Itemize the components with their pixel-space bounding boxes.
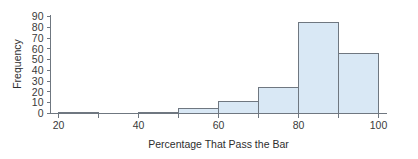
histogram-figure: 0102030405060708090 20406080100 Percenta… — [0, 0, 418, 159]
y-tick-label: 60 — [32, 43, 44, 55]
histogram-bar — [259, 88, 299, 114]
y-tick-label: 30 — [32, 75, 44, 87]
histogram-bar — [339, 53, 379, 113]
x-tick-label: 40 — [133, 119, 145, 131]
y-tick-label: 90 — [32, 10, 44, 22]
y-tick-label: 80 — [32, 21, 44, 33]
histogram-bar — [299, 22, 339, 113]
histogram-bar — [179, 108, 219, 113]
x-axis-title: Percentage That Pass the Bar — [148, 138, 289, 150]
y-axis-title: Frequency — [11, 38, 23, 88]
y-axis-ticks: 0102030405060708090 — [32, 10, 51, 119]
y-tick-label: 70 — [32, 32, 44, 44]
y-tick-label: 50 — [32, 53, 44, 65]
histogram-bar — [219, 102, 259, 114]
x-tick-label: 100 — [370, 119, 388, 131]
x-axis-ticks: 20406080100 — [53, 114, 388, 131]
x-tick-label: 60 — [213, 119, 225, 131]
y-tick-label: 40 — [32, 64, 44, 76]
x-tick-label: 80 — [293, 119, 305, 131]
x-tick-label: 20 — [53, 119, 65, 131]
y-tick-label: 10 — [32, 96, 44, 108]
histogram-chart: 0102030405060708090 20406080100 Percenta… — [0, 0, 418, 159]
y-tick-label: 0 — [38, 107, 44, 119]
y-tick-label: 20 — [32, 86, 44, 98]
histogram-bars — [59, 22, 379, 113]
